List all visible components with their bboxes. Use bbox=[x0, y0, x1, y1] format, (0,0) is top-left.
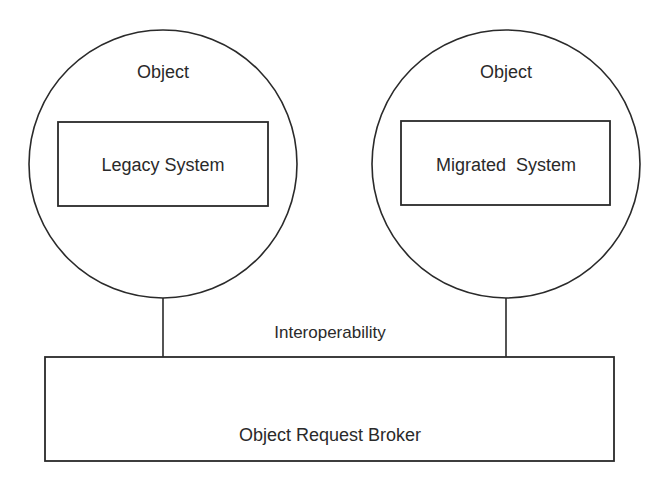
architecture-diagram: Object Legacy System Object Migrated Sys… bbox=[0, 0, 662, 484]
object-node-legacy: Object Legacy System bbox=[29, 30, 297, 298]
broker-node: Object Request Broker bbox=[45, 357, 614, 461]
system-label: Legacy System bbox=[101, 155, 224, 175]
broker-box bbox=[45, 357, 614, 461]
object-title: Object bbox=[137, 62, 189, 82]
broker-label: Object Request Broker bbox=[239, 425, 421, 445]
system-label: Migrated System bbox=[436, 155, 576, 175]
object-title: Object bbox=[480, 62, 532, 82]
interoperability-label: Interoperability bbox=[274, 323, 386, 342]
object-node-migrated: Object Migrated System bbox=[372, 30, 640, 298]
